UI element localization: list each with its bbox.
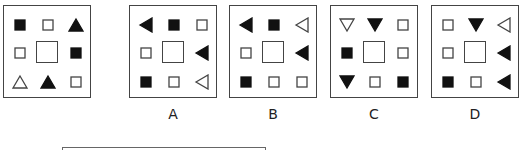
square-outline-icon xyxy=(138,45,154,61)
triangle-left-filled-icon xyxy=(294,45,310,61)
triangle-up-filled-icon xyxy=(40,74,56,90)
triangle-left-filled-icon xyxy=(496,74,512,90)
square-outline-icon xyxy=(68,74,84,90)
square-outline-icon xyxy=(395,17,411,33)
square-outline-icon xyxy=(395,45,411,61)
square-filled-icon xyxy=(138,74,154,90)
square-filled-icon xyxy=(266,17,282,33)
answer-box xyxy=(62,147,266,150)
question-panel xyxy=(3,5,91,98)
center-square-icon xyxy=(464,41,486,63)
square-outline-icon xyxy=(367,74,383,90)
square-filled-icon xyxy=(68,45,84,61)
square-filled-icon xyxy=(12,17,28,33)
triangle-left-filled-icon xyxy=(194,45,210,61)
triangle-left-outline-icon xyxy=(294,17,310,33)
option-b-label[interactable]: B xyxy=(229,106,317,122)
center-square-icon xyxy=(162,41,184,63)
square-filled-icon xyxy=(339,45,355,61)
option-a-panel[interactable] xyxy=(129,5,217,98)
square-outline-icon xyxy=(238,45,254,61)
triangle-down-filled-icon xyxy=(339,74,355,90)
square-filled-icon xyxy=(166,17,182,33)
option-a-label[interactable]: A xyxy=(129,106,217,122)
triangle-down-filled-icon xyxy=(468,17,484,33)
square-outline-icon xyxy=(468,74,484,90)
option-c-label[interactable]: C xyxy=(330,106,418,122)
triangle-left-filled-icon xyxy=(238,17,254,33)
option-d-panel[interactable] xyxy=(431,5,519,98)
option-d-label[interactable]: D xyxy=(431,106,519,122)
square-outline-icon xyxy=(12,45,28,61)
triangle-left-outline-icon xyxy=(496,17,512,33)
option-c-panel[interactable] xyxy=(330,5,418,98)
center-square-icon xyxy=(363,41,385,63)
center-square-icon xyxy=(262,41,284,63)
triangle-left-outline-icon xyxy=(194,74,210,90)
square-outline-icon xyxy=(440,45,456,61)
square-filled-icon xyxy=(238,74,254,90)
square-outline-icon xyxy=(40,17,56,33)
triangle-up-filled-icon xyxy=(68,17,84,33)
triangle-up-outline-icon xyxy=(12,74,28,90)
square-outline-icon xyxy=(194,17,210,33)
square-filled-icon xyxy=(440,74,456,90)
option-b-panel[interactable] xyxy=(229,5,317,98)
square-outline-icon xyxy=(294,74,310,90)
square-outline-icon xyxy=(166,74,182,90)
triangle-down-outline-icon xyxy=(339,17,355,33)
triangle-down-filled-icon xyxy=(367,17,383,33)
square-outline-icon xyxy=(440,17,456,33)
triangle-left-filled-icon xyxy=(138,17,154,33)
center-square-icon xyxy=(36,41,58,63)
square-filled-icon xyxy=(395,74,411,90)
square-outline-icon xyxy=(266,74,282,90)
triangle-left-filled-icon xyxy=(496,45,512,61)
